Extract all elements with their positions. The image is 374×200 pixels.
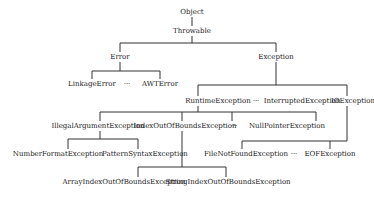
node-null-pointer-exception: NullPointerException <box>249 123 325 130</box>
node-throwable: Throwable <box>173 28 211 35</box>
node-io-exception: IOException <box>331 98 374 105</box>
ellipsis: ··· <box>124 81 131 88</box>
node-error: Error <box>110 54 129 61</box>
node-awt-error: AWTError <box>142 81 178 88</box>
node-runtime-exception: RuntimeException <box>185 98 251 105</box>
node-illegal-argument-exception: IllegalArgumentException <box>51 123 144 130</box>
node-index-out-of-bounds-exception: IndexOutOfBoundsException <box>133 123 236 130</box>
node-eof-exception: EOFException <box>304 151 355 158</box>
node-exception: Exception <box>258 54 293 61</box>
node-object: Object <box>180 9 203 16</box>
ellipsis: ··· <box>231 123 238 130</box>
ellipsis: ··· <box>291 151 298 158</box>
ellipsis: ··· <box>253 98 260 105</box>
class-hierarchy-diagram: Object Throwable Error Exception Linkage… <box>0 0 374 200</box>
node-pattern-syntax-exception: PatternSyntaxException <box>102 151 188 158</box>
node-number-format-exception: NumberFormatException <box>13 151 103 158</box>
node-interrupted-exception: InterruptedException <box>264 98 341 105</box>
node-linkage-error: LinkageError <box>68 81 116 88</box>
node-string-index-out-of-bounds-exception: StringIndexOutOfBoundsException <box>165 179 290 186</box>
node-file-not-found-exception: FileNotFoundException <box>204 151 288 158</box>
